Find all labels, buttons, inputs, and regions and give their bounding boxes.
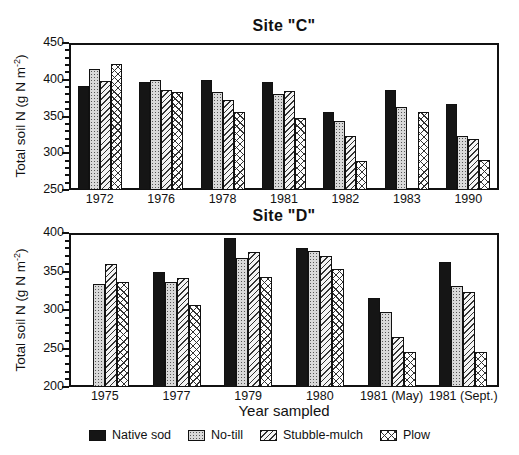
bar	[463, 292, 475, 387]
y-axis-title-text: Total soil N (g N m	[13, 261, 28, 371]
bar	[153, 272, 165, 388]
y-tick-label: 350	[9, 109, 64, 123]
bar	[368, 298, 380, 387]
y-minor-tick	[65, 145, 69, 147]
bar	[334, 121, 345, 190]
bar	[418, 112, 429, 190]
x-tick-label: 1981 (Sept.)	[418, 389, 508, 403]
figure-page: Site "C" Site "D" Total soil N (g N m-2)…	[0, 0, 519, 455]
y-minor-tick	[65, 355, 69, 357]
bar	[78, 86, 89, 190]
bar	[345, 136, 356, 190]
bar	[223, 100, 234, 190]
legend-swatch-solid	[89, 430, 106, 441]
y-minor-tick	[65, 363, 69, 365]
bar	[308, 251, 320, 387]
y-axis-title-superscript: -2	[12, 59, 22, 67]
x-axis-title: Year sampled	[69, 402, 499, 419]
bar	[93, 284, 105, 387]
bar	[392, 337, 404, 387]
bar	[451, 286, 463, 387]
legend-swatch-diagonal	[260, 430, 277, 441]
bar	[201, 80, 212, 190]
y-tick-label: 450	[9, 35, 64, 49]
y-minor-tick	[65, 71, 69, 73]
bar	[332, 269, 344, 387]
y-minor-tick	[65, 255, 69, 257]
y-minor-tick	[65, 286, 69, 288]
y-minor-tick	[65, 49, 69, 51]
bar	[468, 139, 479, 190]
y-minor-tick	[65, 86, 69, 88]
legend: Native sodNo-tillStubble-mulchPlow	[0, 428, 519, 442]
bar	[177, 278, 189, 387]
bar	[262, 82, 273, 190]
y-minor-tick	[65, 247, 69, 249]
y-tick-label: 400	[9, 72, 64, 86]
bar	[380, 312, 392, 387]
y-minor-tick	[65, 301, 69, 303]
y-tick-label: 200	[9, 379, 64, 393]
y-axis-title-suffix: )	[13, 249, 28, 254]
bar	[356, 161, 367, 190]
y-minor-tick	[65, 240, 69, 242]
plot-area	[69, 233, 499, 387]
bar	[150, 80, 161, 190]
bar	[172, 92, 183, 190]
legend-label: Plow	[403, 428, 430, 442]
y-minor-tick	[65, 324, 69, 326]
legend-label: No-till	[211, 428, 243, 442]
bar	[320, 256, 332, 387]
bar	[89, 69, 100, 190]
bar	[457, 136, 468, 190]
legend-swatch-crosshatch	[380, 430, 397, 441]
y-minor-tick	[65, 93, 69, 95]
bar	[165, 282, 177, 387]
y-minor-tick	[65, 182, 69, 184]
y-tick-label: 350	[9, 264, 64, 278]
y-minor-tick	[65, 108, 69, 110]
y-minor-tick	[65, 294, 69, 296]
bar	[295, 118, 306, 190]
y-minor-tick	[65, 101, 69, 103]
bar	[224, 238, 236, 387]
bar	[161, 90, 172, 190]
y-axis-title-superscript: -2	[12, 253, 22, 261]
bar	[396, 107, 407, 190]
bar	[139, 82, 150, 190]
y-minor-tick	[65, 340, 69, 342]
y-minor-tick	[65, 371, 69, 373]
bar	[446, 104, 457, 190]
bar	[439, 262, 451, 387]
chart-title-site-d: Site "D"	[69, 207, 499, 225]
bar	[234, 112, 245, 190]
legend-item: Native sod	[89, 428, 171, 442]
bar	[296, 248, 308, 387]
y-minor-tick	[65, 160, 69, 162]
bar	[117, 282, 129, 387]
bar	[284, 91, 295, 190]
bar	[479, 160, 490, 190]
bar	[212, 92, 223, 190]
y-tick-label: 300	[9, 302, 64, 316]
y-minor-tick	[65, 57, 69, 59]
x-tick-label: 1990	[423, 192, 513, 206]
bar	[248, 252, 260, 387]
legend-label: Native sod	[112, 428, 171, 442]
y-minor-tick	[65, 263, 69, 265]
legend-label: Stubble-mulch	[283, 428, 363, 442]
y-minor-tick	[65, 332, 69, 334]
y-minor-tick	[65, 378, 69, 380]
bar	[385, 90, 396, 190]
legend-item: Stubble-mulch	[260, 428, 363, 442]
bar	[260, 277, 272, 387]
y-minor-tick	[65, 174, 69, 176]
y-minor-tick	[65, 278, 69, 280]
y-minor-tick	[65, 123, 69, 125]
y-minor-tick	[65, 317, 69, 319]
bar	[111, 64, 122, 190]
y-tick-label: 400	[9, 225, 64, 239]
chart-title-site-c: Site "C"	[69, 17, 499, 35]
y-minor-tick	[65, 64, 69, 66]
bar	[273, 94, 284, 190]
